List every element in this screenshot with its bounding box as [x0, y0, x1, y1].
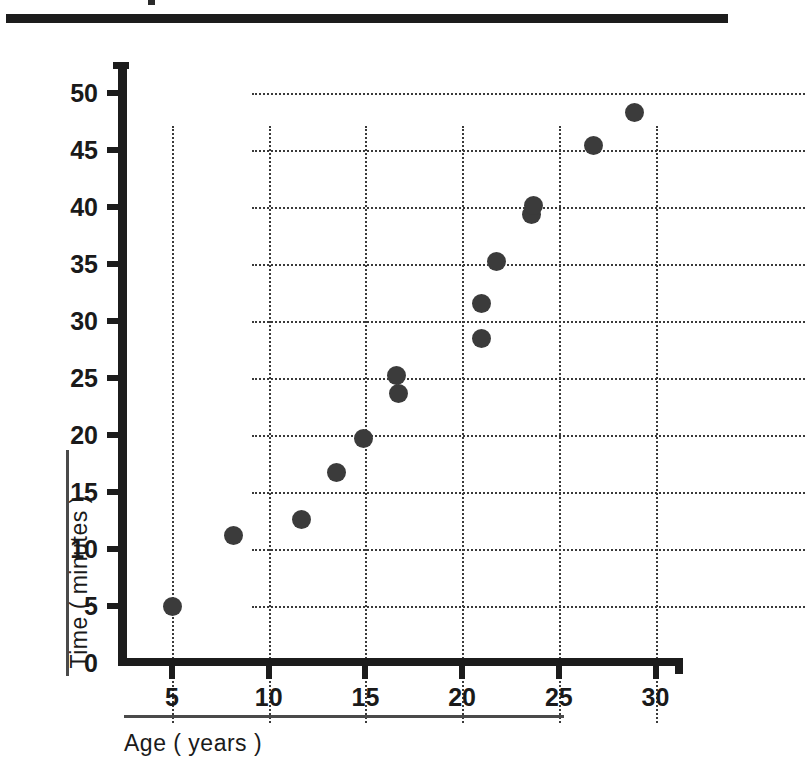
x-tick-label: 25 — [529, 685, 589, 710]
y-tick-mark — [107, 147, 122, 153]
gridline-horizontal — [252, 549, 805, 551]
gridline-vertical — [559, 126, 561, 723]
x-axis-title: Age ( years ) — [124, 730, 262, 757]
gridline-horizontal — [252, 378, 805, 380]
gridline-horizontal — [252, 435, 805, 437]
gridline-vertical — [365, 126, 367, 723]
y-axis-title: Time ( minutes ) — [66, 439, 93, 669]
y-tick-mark — [107, 90, 122, 96]
y-tick-label: 30 — [52, 309, 98, 334]
gridline-vertical — [656, 126, 658, 723]
x-axis-title-rule — [124, 715, 564, 718]
gridline-vertical — [462, 126, 464, 723]
gridline-horizontal — [252, 321, 805, 323]
x-axis-line — [118, 658, 683, 666]
y-tick-mark — [107, 603, 122, 609]
y-tick-label: 50 — [52, 81, 98, 106]
y-tick-mark — [107, 489, 122, 495]
data-point — [625, 103, 644, 122]
data-point — [163, 597, 182, 616]
data-point — [387, 366, 406, 385]
x-tick-label: 10 — [239, 685, 299, 710]
x-tick-label: 5 — [142, 685, 202, 710]
x-tick-mark — [169, 663, 175, 679]
data-point — [584, 136, 603, 155]
y-tick-label: 35 — [52, 252, 98, 277]
y-tick-mark — [107, 546, 122, 552]
x-tick-label: 15 — [335, 685, 395, 710]
x-tick-mark — [653, 663, 659, 679]
x-tick-mark — [266, 663, 272, 679]
x-tick-label: 30 — [626, 685, 686, 710]
y-tick-mark — [107, 432, 122, 438]
top-border-rule — [6, 14, 728, 23]
gridline-horizontal — [252, 264, 805, 266]
gridline-vertical — [172, 126, 174, 723]
scan-artifact-mark — [148, 0, 155, 5]
x-tick-label: 20 — [432, 685, 492, 710]
y-tick-label: 40 — [52, 195, 98, 220]
gridline-horizontal — [252, 150, 805, 152]
y-tick-label: 45 — [52, 138, 98, 163]
gridline-horizontal — [252, 492, 805, 494]
x-axis-cap — [675, 658, 683, 674]
data-point — [354, 429, 373, 448]
x-tick-mark — [362, 663, 368, 679]
gridline-horizontal — [252, 93, 805, 95]
gridline-horizontal — [252, 606, 805, 608]
gridline-vertical — [269, 126, 271, 723]
y-tick-label: 25 — [52, 366, 98, 391]
y-tick-mark — [107, 204, 122, 210]
x-tick-mark — [556, 663, 562, 679]
x-tick-mark — [459, 663, 465, 679]
y-tick-mark — [107, 375, 122, 381]
data-point — [327, 463, 346, 482]
y-tick-mark — [107, 318, 122, 324]
data-point — [472, 329, 491, 348]
y-tick-mark — [107, 261, 122, 267]
data-point — [292, 510, 311, 529]
